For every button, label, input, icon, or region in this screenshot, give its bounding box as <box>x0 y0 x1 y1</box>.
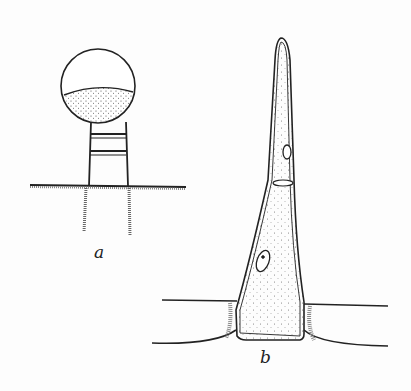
illustration <box>0 0 411 391</box>
panel-a-label: a <box>94 242 104 262</box>
panel-b-drawing <box>152 38 388 346</box>
panel-a-drawing <box>30 49 186 236</box>
figure: a b <box>0 0 411 391</box>
panel-b-label: b <box>260 347 271 367</box>
